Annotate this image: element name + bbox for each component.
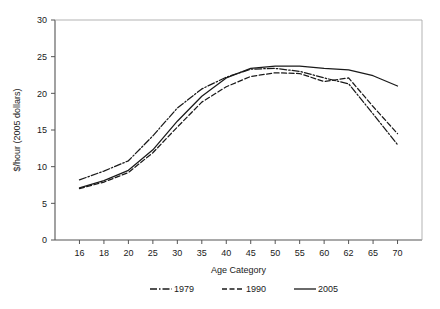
x-tick-label: 60: [319, 248, 329, 258]
line-chart: 051015202530 161820253035404550556062657…: [0, 0, 440, 309]
series-line-1979: [79, 68, 397, 179]
legend-label-1979: 1979: [174, 284, 194, 294]
y-tick-label: 25: [37, 52, 47, 62]
y-tick-label: 0: [42, 235, 47, 245]
x-tick-label: 18: [99, 248, 109, 258]
x-tick-label: 20: [123, 248, 133, 258]
legend-label-2005: 2005: [318, 284, 338, 294]
y-tick-label: 5: [42, 199, 47, 209]
chart-axes: [55, 20, 422, 240]
chart-series-lines: [79, 66, 397, 188]
x-tick-label: 30: [172, 248, 182, 258]
x-tick-label: 16: [74, 248, 84, 258]
y-axis-title: $/hour (2005 dollars): [12, 88, 22, 171]
y-tick-label: 30: [37, 15, 47, 25]
y-tick-label: 20: [37, 89, 47, 99]
x-tick-label: 35: [197, 248, 207, 258]
x-tick-label: 55: [295, 248, 305, 258]
chart-legend: 197919902005: [150, 284, 338, 294]
x-tick-label: 70: [393, 248, 403, 258]
x-axis-ticks: 1618202530354045505560626570: [74, 240, 402, 258]
y-tick-label: 15: [37, 125, 47, 135]
x-axis-title: Age Category: [211, 265, 267, 275]
y-axis-ticks: 051015202530: [37, 15, 55, 245]
x-tick-label: 45: [246, 248, 256, 258]
legend-label-1990: 1990: [246, 284, 266, 294]
x-tick-label: 40: [221, 248, 231, 258]
x-tick-label: 62: [344, 248, 354, 258]
chart-canvas: 051015202530 161820253035404550556062657…: [0, 0, 440, 309]
y-tick-label: 10: [37, 162, 47, 172]
x-tick-label: 65: [368, 248, 378, 258]
x-tick-label: 25: [148, 248, 158, 258]
x-tick-label: 50: [270, 248, 280, 258]
